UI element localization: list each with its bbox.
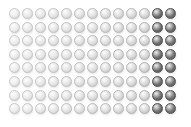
disc-cell	[35, 62, 46, 73]
disc-cell	[113, 103, 124, 114]
disc-cell	[22, 8, 33, 19]
disc-cell	[61, 62, 72, 73]
disc-cell	[152, 76, 163, 87]
disc-row	[0, 49, 191, 62]
disc-row	[0, 35, 191, 48]
disc-cell	[9, 8, 20, 19]
light-disc	[48, 22, 59, 33]
disc-cell	[139, 8, 150, 19]
disc-cell	[9, 76, 20, 87]
light-disc	[126, 76, 137, 87]
light-disc	[9, 76, 20, 87]
light-disc	[87, 49, 98, 60]
disc-cell	[35, 103, 46, 114]
disc-cell	[126, 22, 137, 33]
light-disc	[139, 22, 150, 33]
light-disc	[35, 22, 46, 33]
light-disc	[48, 8, 59, 19]
disc-cell	[152, 90, 163, 101]
light-disc	[113, 8, 124, 19]
disc-cell	[9, 22, 20, 33]
disc-cell	[100, 8, 111, 19]
light-disc	[9, 90, 20, 101]
disc-cell	[35, 76, 46, 87]
dark-disc	[152, 90, 163, 101]
disc-cell	[35, 90, 46, 101]
dark-disc	[165, 76, 176, 87]
disc-cell	[87, 90, 98, 101]
disc-cell	[165, 62, 176, 73]
disc-cell	[100, 62, 111, 73]
disc-cell	[9, 62, 20, 73]
disc-cell	[152, 49, 163, 60]
disc-cell	[152, 35, 163, 46]
light-disc	[74, 76, 85, 87]
disc-cell	[48, 76, 59, 87]
light-disc	[74, 8, 85, 19]
disc-cell	[152, 103, 163, 114]
disc-cell	[139, 62, 150, 73]
disc-cell	[22, 90, 33, 101]
disc-cell	[22, 49, 33, 60]
dark-disc	[165, 49, 176, 60]
light-disc	[87, 8, 98, 19]
light-disc	[126, 49, 137, 60]
disc-cell	[48, 62, 59, 73]
disc-cell	[139, 49, 150, 60]
disc-cell	[139, 35, 150, 46]
dark-disc	[165, 8, 176, 19]
disc-cell	[9, 35, 20, 46]
light-disc	[9, 8, 20, 19]
disc-cell	[126, 35, 137, 46]
disc-cell	[74, 35, 85, 46]
dark-disc	[165, 22, 176, 33]
light-disc	[100, 90, 111, 101]
disc-cell	[165, 8, 176, 19]
disc-cell	[152, 8, 163, 19]
light-disc	[100, 49, 111, 60]
light-disc	[48, 76, 59, 87]
disc-cell	[61, 76, 72, 87]
dark-disc	[152, 76, 163, 87]
disc-cell	[165, 35, 176, 46]
light-disc	[61, 90, 72, 101]
light-disc	[113, 22, 124, 33]
light-disc	[139, 8, 150, 19]
disc-cell	[126, 8, 137, 19]
disc-cell	[9, 90, 20, 101]
disc-cell	[61, 22, 72, 33]
disc-cell	[100, 35, 111, 46]
disc-cell	[126, 90, 137, 101]
dark-disc	[165, 90, 176, 101]
light-disc	[48, 90, 59, 101]
disc-cell	[22, 35, 33, 46]
disc-cell	[35, 35, 46, 46]
light-disc	[35, 76, 46, 87]
disc-cell	[152, 62, 163, 73]
light-disc	[87, 22, 98, 33]
disc-cell	[48, 35, 59, 46]
disc-cell	[113, 62, 124, 73]
disc-cell	[61, 90, 72, 101]
disc-cell	[87, 76, 98, 87]
light-disc	[22, 49, 33, 60]
disc-cell	[100, 22, 111, 33]
disc-cell	[22, 62, 33, 73]
image-canvas	[0, 0, 191, 127]
light-disc	[61, 8, 72, 19]
disc-grid	[0, 0, 191, 127]
light-disc	[74, 22, 85, 33]
light-disc	[22, 76, 33, 87]
disc-cell	[48, 49, 59, 60]
light-disc	[139, 76, 150, 87]
light-disc	[35, 49, 46, 60]
disc-cell	[165, 76, 176, 87]
light-disc	[74, 90, 85, 101]
disc-row	[0, 62, 191, 75]
disc-cell	[113, 35, 124, 46]
disc-cell	[61, 35, 72, 46]
disc-cell	[48, 8, 59, 19]
light-disc	[22, 90, 33, 101]
disc-cell	[87, 103, 98, 114]
disc-cell	[48, 22, 59, 33]
